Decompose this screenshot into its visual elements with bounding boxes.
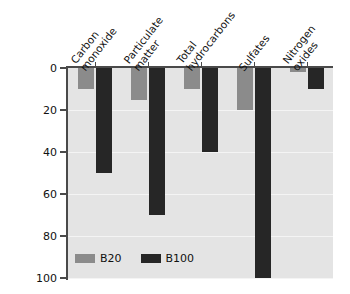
legend-item-b100: B100 <box>141 253 195 264</box>
legend-label-b20: B20 <box>100 253 122 264</box>
bar-chart: Percent reduction versus petrodiesel 020… <box>0 0 350 294</box>
y-tick-mark <box>60 235 66 237</box>
bar-b100-1 <box>149 68 165 215</box>
bar-b100-2 <box>202 68 218 152</box>
y-tick-mark <box>60 151 66 153</box>
legend: B20B100 <box>75 253 204 264</box>
y-tick-label: 40 <box>43 146 57 159</box>
x-tick-label-0: Carbonmonoxide <box>68 18 118 73</box>
legend-swatch-b20 <box>75 254 95 263</box>
bar-b100-4 <box>308 68 324 89</box>
y-tick-mark <box>60 109 66 111</box>
legend-swatch-b100 <box>141 254 161 263</box>
legend-label-b100: B100 <box>166 253 195 264</box>
y-tick-label: 100 <box>36 272 57 285</box>
bar-b20-3 <box>237 68 253 110</box>
bar-b20-1 <box>131 68 147 100</box>
legend-item-b20: B20 <box>75 253 122 264</box>
y-tick-mark <box>60 277 66 279</box>
gridline <box>68 278 333 279</box>
y-tick-label: 20 <box>43 104 57 117</box>
x-tick-label-2: Totalhydrocarbons <box>174 2 236 73</box>
gridline <box>68 194 333 195</box>
y-tick-label: 0 <box>50 62 57 75</box>
y-tick-label: 80 <box>43 230 57 243</box>
y-tick-label: 60 <box>43 188 57 201</box>
y-tick-mark <box>60 67 66 69</box>
plot-area <box>68 68 333 278</box>
bar-b100-3 <box>255 68 271 278</box>
gridline <box>68 236 333 237</box>
y-tick-mark <box>60 193 66 195</box>
bar-b100-0 <box>96 68 112 173</box>
